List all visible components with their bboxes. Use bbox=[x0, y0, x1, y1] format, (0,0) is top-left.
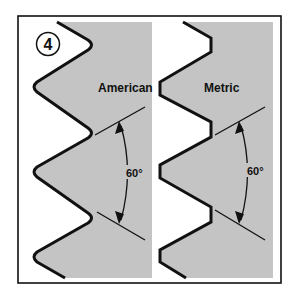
metric-angle-label: 60° bbox=[247, 165, 264, 177]
american-angle-label: 60° bbox=[126, 167, 143, 179]
thread-profile-diagram: 4 American 60° Metric 60° bbox=[0, 0, 296, 300]
figure-number-badge: 4 bbox=[37, 33, 60, 56]
figure-number: 4 bbox=[44, 36, 53, 53]
american-label: American bbox=[98, 81, 153, 95]
metric-label: Metric bbox=[204, 81, 240, 95]
